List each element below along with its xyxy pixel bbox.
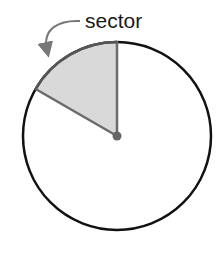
arrow-icon: [46, 21, 80, 50]
center-point: [113, 132, 122, 141]
sector-diagram: sector: [0, 0, 222, 255]
sector-label: sector: [85, 9, 142, 32]
